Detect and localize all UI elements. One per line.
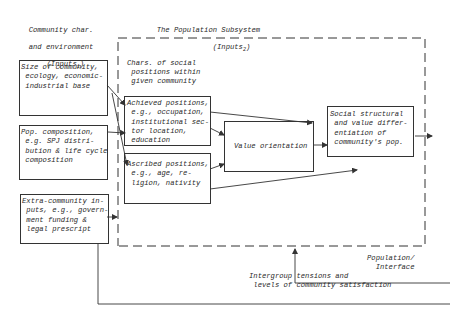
community-inputs-line2: and environment: [29, 43, 94, 51]
achieved-positions-text: Achieved positions, e.g., occupation, in…: [127, 99, 209, 145]
pop-composition-text: Pop. composition, e.g. SPJ distri- butio…: [21, 128, 107, 165]
value-orientation-box: Value orientation: [224, 121, 314, 172]
size-of-community-text: Size of community, ecology, economic- in…: [21, 63, 103, 91]
ascribed-positions-box: Ascribed positions, e.g., age, re- ligio…: [124, 153, 211, 204]
extra-community-text: Extra-community in- puts, e.g., govern- …: [22, 197, 108, 234]
extra-community-box: Extra-community in- puts, e.g., govern- …: [20, 194, 109, 244]
social-structural-box: Social structural and value differ- enti…: [327, 106, 414, 157]
community-inputs-line1: Community char.: [29, 26, 94, 34]
population-subsystem-inputs-end: ): [246, 43, 250, 51]
value-orientation-text: Value orientation: [234, 142, 307, 151]
chars-social-positions-label: Chars. of social positions within given …: [127, 59, 200, 86]
ascribed-positions-text: Ascribed positions, e.g., age, re- ligio…: [127, 160, 209, 188]
pop-composition-box: Pop. composition, e.g. SPJ distri- butio…: [19, 125, 108, 180]
social-structural-text: Social structural and value differ- enti…: [330, 110, 408, 147]
population-subsystem-title: The Population Subsystem: [157, 26, 261, 34]
population-interface-label: Population/ Interface: [367, 254, 414, 272]
intergroup-tensions-label: Intergroup tensions and levels of commun…: [249, 272, 391, 290]
achieved-positions-box: Achieved positions, e.g., occupation, in…: [124, 96, 211, 146]
population-subsystem-label: The Population Subsystem (Inputs2): [148, 17, 260, 55]
population-subsystem-inputs: (Inputs: [213, 43, 243, 51]
size-of-community-box: Size of community, ecology, economic- in…: [19, 60, 108, 116]
